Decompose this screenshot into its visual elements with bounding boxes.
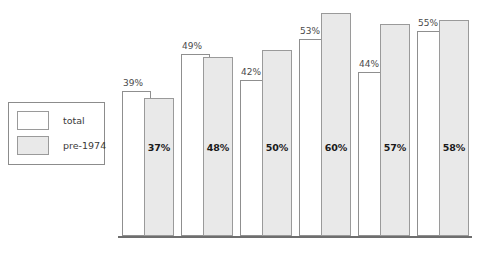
bar-group-27-mar: 48% 49% 27 Mar: [181, 0, 237, 236]
bar-group-31-mar: 58% 55% 31 Mar: [417, 0, 473, 236]
bar-pair: 37% 39%: [122, 31, 178, 236]
bar-pre-1974[interactable]: 48%: [203, 57, 233, 236]
bar-value-label-total: 49%: [182, 41, 202, 51]
bar-value-label-total: 44%: [359, 59, 379, 69]
bar-pair: 60% 53%: [299, 31, 355, 236]
bar-value-label-pre-1974: 37%: [145, 142, 173, 153]
bar-value-label-total: 39%: [123, 78, 143, 88]
bar-group-29-mar: 60% 53% 29 Mar: [299, 0, 355, 236]
bar-group-30-mar: 57% 44% 30 Mar: [358, 0, 414, 236]
bar-value-label-pre-1974: 57%: [381, 142, 409, 153]
bar-value-label-pre-1974: 60%: [322, 142, 350, 153]
bar-group-24-mar: 37% 39% 24 Mar: [122, 0, 178, 236]
bar-pair: 48% 49%: [181, 31, 237, 236]
bar-pre-1974[interactable]: 50%: [262, 50, 292, 236]
bar-pair: 58% 55%: [417, 31, 473, 236]
bar-pre-1974[interactable]: 57%: [380, 24, 410, 236]
bar-value-label-total: 53%: [300, 26, 320, 36]
bar-value-label-total: 42%: [241, 67, 261, 77]
plot-area: 37% 39% 24 Mar 48% 49% 27 Mar 50%: [0, 0, 478, 268]
x-axis-line: [118, 236, 472, 238]
bar-group-28-mar: 50% 42% 28 Mar: [240, 0, 296, 236]
bar-pair: 57% 44%: [358, 31, 414, 236]
bar-pre-1974[interactable]: 60%: [321, 13, 351, 236]
bar-value-label-pre-1974: 50%: [263, 142, 291, 153]
bar-pre-1974[interactable]: 37%: [144, 98, 174, 236]
bar-value-label-pre-1974: 58%: [440, 142, 468, 153]
bar-pair: 50% 42%: [240, 31, 296, 236]
bar-value-label-total: 55%: [418, 18, 438, 28]
bar-value-label-pre-1974: 48%: [204, 142, 232, 153]
bar-pre-1974[interactable]: 58%: [439, 20, 469, 236]
bar-chart: total pre-1974 37% 39% 24 Mar 48%: [0, 0, 478, 268]
